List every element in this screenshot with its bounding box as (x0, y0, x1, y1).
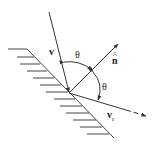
wall-surface-line (8, 49, 114, 138)
normal-label: n (112, 55, 118, 66)
wall (8, 49, 114, 138)
reflected-velocity-label: vr (107, 109, 115, 123)
reflected-velocity-subscript: r (112, 115, 115, 123)
angle-arc-incident (64, 62, 92, 70)
reflection-diagram: v θ ^ n θ vr (0, 0, 159, 150)
incident-velocity-label: v (49, 46, 54, 57)
angle-reflected-label: θ (102, 81, 107, 92)
angle-arc-reflected (93, 72, 100, 100)
angle-incident-label: θ (75, 49, 80, 60)
